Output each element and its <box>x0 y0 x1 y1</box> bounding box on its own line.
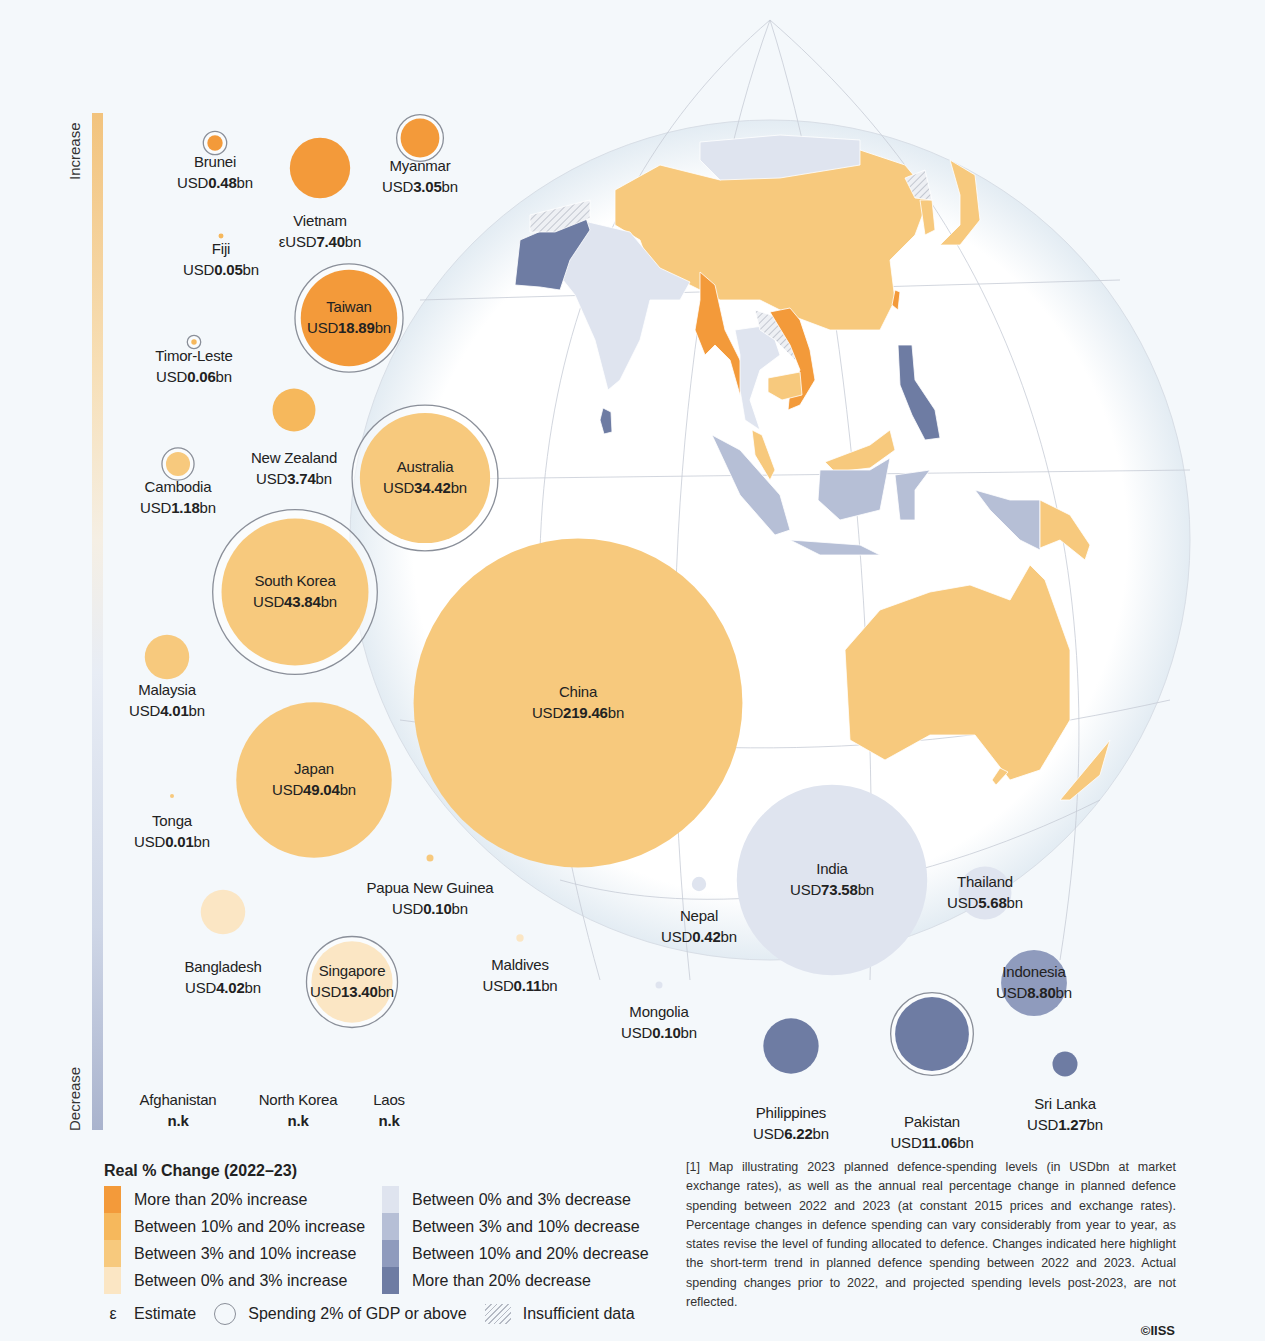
legend-item-dec-0-3: Between 0% and 3% decrease <box>382 1186 660 1213</box>
value-number: 43.84 <box>284 593 321 610</box>
spending-value: USD4.01bn <box>129 700 205 721</box>
spending-value: USD8.80bn <box>996 982 1072 1003</box>
bubble-label-papua-new-guinea: Papua New GuineaUSD0.10bn <box>367 877 494 919</box>
value-number: 1.27 <box>1058 1116 1086 1133</box>
color-swatch <box>104 1213 121 1240</box>
country-name: Maldives <box>483 954 558 975</box>
country-name: Indonesia <box>996 961 1072 982</box>
country-name: Pakistan <box>890 1111 973 1132</box>
value-number: 0.10 <box>652 1024 680 1041</box>
map-canvas <box>0 0 1265 1341</box>
country-name: Australia <box>383 456 467 477</box>
country-name: Thailand <box>947 871 1023 892</box>
footnote: [1] Map illustrating 2023 planned defenc… <box>686 1158 1176 1312</box>
bubble-label-china: ChinaUSD219.46bn <box>532 681 624 723</box>
value-number: 5.68 <box>978 894 1006 911</box>
not-known-label-north-korea: North Korean.k <box>259 1089 338 1131</box>
spending-value: n.k <box>378 1112 399 1129</box>
value-suffix: bn <box>375 319 391 336</box>
value-prefix: USD <box>392 900 423 917</box>
bubble-label-vietnam: VietnamεUSD7.40bn <box>279 210 361 252</box>
spending-value: USD219.46bn <box>532 702 624 723</box>
value-prefix: USD <box>996 984 1027 1001</box>
value-prefix: USD <box>156 368 187 385</box>
not-known-label-laos: Laosn.k <box>373 1089 405 1131</box>
change-scale-bar <box>92 113 103 1130</box>
value-suffix: bn <box>721 928 737 945</box>
value-suffix: bn <box>189 702 205 719</box>
value-prefix: USD <box>532 704 563 721</box>
spending-value: USD0.01bn <box>134 831 210 852</box>
value-number: 34.42 <box>414 479 451 496</box>
value-number: 219.46 <box>563 704 608 721</box>
country-name: Vietnam <box>279 210 361 231</box>
value-number: 6.22 <box>784 1125 812 1142</box>
value-prefix: USD <box>382 178 413 195</box>
value-number: 0.10 <box>423 900 451 917</box>
legend-item-inc-10-20: Between 10% and 20% increase <box>104 1213 382 1240</box>
axis-increase-label: Increase <box>66 122 83 180</box>
bubble-philippines <box>763 1018 818 1073</box>
country-name: Tonga <box>134 810 210 831</box>
value-prefix: εUSD <box>279 233 317 250</box>
value-prefix: USD <box>310 983 341 1000</box>
spending-value: USD0.10bn <box>367 898 494 919</box>
color-swatch <box>382 1213 399 1240</box>
legend-increase-column: More than 20% increaseBetween 10% and 20… <box>104 1186 382 1294</box>
value-prefix: USD <box>134 833 165 850</box>
value-prefix: USD <box>140 499 171 516</box>
spending-value: USD0.10bn <box>621 1022 697 1043</box>
country-name: Bangladesh <box>184 956 261 977</box>
bubble-label-malaysia: MalaysiaUSD4.01bn <box>129 679 205 721</box>
value-prefix: USD <box>272 781 303 798</box>
value-number: 4.02 <box>216 979 244 996</box>
value-prefix: USD <box>307 319 338 336</box>
spending-value: USD18.89bn <box>307 317 391 338</box>
country-name: Fiji <box>183 238 259 259</box>
spending-value: USD34.42bn <box>383 477 467 498</box>
legend-symbols: ε Estimate Spending 2% of GDP or above I… <box>104 1303 664 1325</box>
spending-value: USD0.42bn <box>661 926 737 947</box>
value-prefix: USD <box>129 702 160 719</box>
value-number: 0.42 <box>692 928 720 945</box>
value-suffix: bn <box>200 499 216 516</box>
color-swatch <box>382 1267 399 1294</box>
value-number: 7.40 <box>316 233 344 250</box>
defence-spending-map: Increase Decrease BruneiUSD0.48bnVietnam… <box>0 0 1265 1341</box>
bubble-maldives <box>516 934 523 941</box>
legend-item-label: Between 3% and 10% decrease <box>412 1218 640 1236</box>
bubble-label-australia: AustraliaUSD34.42bn <box>383 456 467 498</box>
bubble-label-new-zealand: New ZealandUSD3.74bn <box>251 447 337 489</box>
country-name: Afghanistan <box>139 1089 216 1110</box>
value-number: 1.18 <box>171 499 199 516</box>
spending-value: USD11.06bn <box>890 1132 973 1153</box>
value-suffix: bn <box>452 900 468 917</box>
copyright: ©IISS <box>1141 1323 1175 1338</box>
value-prefix: USD <box>790 881 821 898</box>
legend-item-dec-3-10: Between 3% and 10% decrease <box>382 1213 660 1240</box>
spending-value: USD5.68bn <box>947 892 1023 913</box>
legend-insufficient-label: Insufficient data <box>523 1305 635 1323</box>
legend-insufficient: Insufficient data <box>485 1304 635 1324</box>
spending-value: n.k <box>287 1112 308 1129</box>
value-number: 0.11 <box>514 977 542 994</box>
value-number: 0.01 <box>165 833 193 850</box>
country-name: Laos <box>373 1089 405 1110</box>
value-prefix: USD <box>185 979 216 996</box>
value-suffix: bn <box>1007 894 1023 911</box>
country-name: Mongolia <box>621 1001 697 1022</box>
bubble-label-cambodia: CambodiaUSD1.18bn <box>140 476 216 518</box>
value-number: 0.48 <box>208 174 236 191</box>
spending-value: USD3.05bn <box>382 176 458 197</box>
bubble-label-india: IndiaUSD73.58bn <box>790 858 874 900</box>
bubble-label-mongolia: MongoliaUSD0.10bn <box>621 1001 697 1043</box>
bubble-bangladesh <box>201 890 246 935</box>
bubble-label-philippines: PhilippinesUSD6.22bn <box>753 1102 829 1144</box>
ring-icon <box>214 1303 236 1325</box>
value-number: 3.74 <box>287 470 315 487</box>
bubble-sri-lanka <box>1052 1051 1077 1076</box>
spending-value: USD3.74bn <box>251 468 337 489</box>
bubble-label-maldives: MaldivesUSD0.11bn <box>483 954 558 996</box>
spending-value: n.k <box>167 1112 188 1129</box>
legend-item-inc-gt20: More than 20% increase <box>104 1186 382 1213</box>
